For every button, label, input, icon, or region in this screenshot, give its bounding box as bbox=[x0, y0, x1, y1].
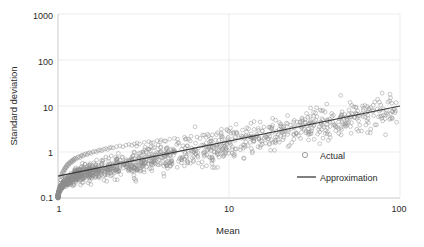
legend-label-approximation: Approximation bbox=[320, 173, 378, 183]
y-tick-label: 100 bbox=[38, 57, 53, 67]
y-axis-title: Standard deviation bbox=[8, 66, 19, 145]
x-tick-label: 1 bbox=[56, 204, 61, 214]
y-tick-label: 1 bbox=[48, 148, 53, 158]
y-tick-label: 10 bbox=[43, 103, 53, 113]
legend-label-actual: Actual bbox=[320, 151, 345, 161]
x-tick-label: 10 bbox=[224, 204, 234, 214]
x-axis-title: Mean bbox=[216, 225, 240, 236]
y-tick-label: 0.1 bbox=[40, 193, 53, 203]
chart-figure: 1 10 100 0.1 1 10 100 1000 Mean Standard… bbox=[0, 0, 424, 247]
scatter-plot-svg: 1 10 100 0.1 1 10 100 1000 Mean Standard… bbox=[0, 0, 424, 247]
y-tick-label: 1000 bbox=[33, 11, 53, 21]
x-tick-label: 100 bbox=[391, 204, 406, 214]
